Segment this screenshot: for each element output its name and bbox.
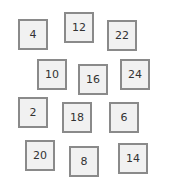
number-tile-4[interactable]: 4 bbox=[18, 19, 48, 50]
tile-label: 22 bbox=[115, 29, 129, 42]
tile-label: 14 bbox=[126, 152, 140, 165]
tile-label: 2 bbox=[30, 106, 37, 119]
tile-label: 12 bbox=[72, 21, 86, 34]
tile-label: 18 bbox=[70, 111, 84, 124]
tile-label: 10 bbox=[45, 68, 59, 81]
number-tile-8[interactable]: 8 bbox=[69, 146, 99, 177]
number-tile-10[interactable]: 10 bbox=[37, 59, 67, 90]
tile-label: 8 bbox=[81, 155, 88, 168]
number-tile-20[interactable]: 20 bbox=[25, 140, 55, 171]
number-tile-2[interactable]: 2 bbox=[18, 97, 48, 128]
number-tile-12[interactable]: 12 bbox=[64, 12, 94, 43]
number-tile-22[interactable]: 22 bbox=[107, 20, 137, 51]
tile-label: 20 bbox=[33, 149, 47, 162]
number-tile-14[interactable]: 14 bbox=[118, 143, 148, 174]
number-tile-18[interactable]: 18 bbox=[62, 102, 92, 133]
tile-label: 24 bbox=[128, 68, 142, 81]
tile-label: 6 bbox=[121, 111, 128, 124]
number-tile-board: 4 12 22 10 16 24 2 18 6 20 8 14 bbox=[0, 0, 174, 185]
number-tile-16[interactable]: 16 bbox=[78, 64, 108, 95]
number-tile-6[interactable]: 6 bbox=[109, 102, 139, 133]
number-tile-24[interactable]: 24 bbox=[120, 59, 150, 90]
tile-label: 16 bbox=[86, 73, 100, 86]
tile-label: 4 bbox=[30, 28, 37, 41]
